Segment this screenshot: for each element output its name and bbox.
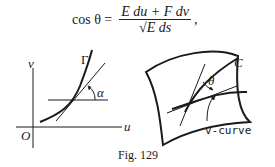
gamma-label: Γ xyxy=(81,52,89,68)
alpha-label: α xyxy=(97,85,104,101)
c-label: C xyxy=(234,55,243,71)
v-axis-label: v xyxy=(28,56,34,72)
tangent-c xyxy=(180,64,205,126)
origin-label: O xyxy=(21,128,30,144)
figure-caption: Fig. 129 xyxy=(118,148,158,163)
v-curve-label: v-curve xyxy=(205,124,251,137)
theta-label: θ xyxy=(208,73,214,89)
figure-drawing xyxy=(0,0,275,167)
u-axis-label: u xyxy=(124,119,131,135)
tangent-v xyxy=(167,86,237,113)
